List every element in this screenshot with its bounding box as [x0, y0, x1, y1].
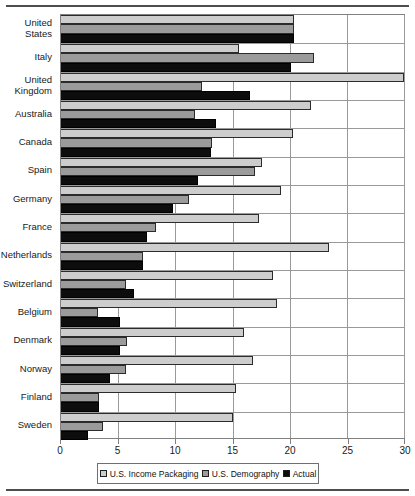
bar: [61, 53, 314, 62]
chart-figure: United StatesItalyUnited KingdomAustrali…: [0, 0, 415, 496]
bar: [61, 63, 291, 72]
x-tick-label: 20: [284, 445, 295, 457]
legend-label: U.S. Income Packaging: [110, 469, 199, 479]
bar: [61, 214, 259, 223]
x-tick: [404, 439, 405, 444]
top-divider-rule: [6, 5, 409, 7]
y-axis-label: Canada: [19, 136, 56, 147]
bar-group: [61, 43, 404, 71]
y-axis-label: Switzerland: [3, 278, 56, 289]
bar-group: [61, 100, 404, 128]
bar-group: [61, 412, 404, 440]
y-axis-label: Denmark: [13, 334, 56, 345]
bar: [61, 289, 134, 298]
bar: [61, 280, 126, 289]
bar: [61, 413, 233, 422]
bar: [61, 186, 281, 195]
bar: [61, 34, 294, 43]
bar: [61, 252, 143, 261]
x-tick-label: 10: [169, 445, 180, 457]
bar: [61, 422, 103, 431]
legend-swatch-icon: [283, 470, 290, 477]
bar: [61, 232, 147, 241]
bar-group: [61, 157, 404, 185]
bar: [61, 365, 126, 374]
y-axis-category-labels: United StatesItalyUnited KingdomAustrali…: [0, 14, 56, 439]
x-tick-label: 5: [115, 445, 121, 457]
y-axis-label: Netherlands: [1, 249, 56, 260]
x-tick: [175, 439, 176, 444]
legend-swatch-icon: [202, 470, 209, 477]
bar: [61, 129, 293, 138]
bar: [61, 82, 202, 91]
bar: [61, 317, 120, 326]
legend-item[interactable]: U.S. Demography: [202, 469, 280, 479]
x-tick: [233, 439, 234, 444]
bar: [61, 158, 262, 167]
bar: [61, 328, 244, 337]
y-axis-label: Sweden: [18, 419, 56, 430]
x-tick: [118, 439, 119, 444]
bar: [61, 195, 189, 204]
x-tick-label: 15: [227, 445, 238, 457]
bar: [61, 138, 212, 147]
bar: [61, 384, 236, 393]
bar: [61, 346, 120, 355]
y-axis-label: United States: [25, 17, 56, 39]
bar: [61, 110, 195, 119]
bar: [61, 261, 143, 270]
bar-group: [61, 72, 404, 100]
x-tick-label: 25: [342, 445, 353, 457]
plot-area: [60, 14, 405, 439]
bar: [61, 308, 98, 317]
y-axis-label: Belgium: [18, 306, 56, 317]
x-tick: [60, 439, 61, 444]
bar: [61, 223, 156, 232]
legend-item[interactable]: U.S. Income Packaging: [100, 469, 199, 479]
bar: [61, 271, 273, 280]
bar-group: [61, 298, 404, 326]
gridline-30: [404, 15, 405, 438]
bar-group: [61, 128, 404, 156]
x-axis: 051015202530: [60, 439, 405, 461]
legend-item[interactable]: Actual: [283, 469, 317, 479]
y-axis-label: France: [22, 221, 56, 232]
bar: [61, 176, 198, 185]
bar: [61, 44, 239, 53]
y-axis-label: Australia: [15, 108, 56, 119]
bar: [61, 243, 329, 252]
y-axis-label: Finland: [21, 391, 56, 402]
legend-label: Actual: [293, 469, 317, 479]
bar: [61, 119, 216, 128]
y-axis-label: Germany: [13, 193, 56, 204]
bar: [61, 167, 255, 176]
bar: [61, 402, 99, 411]
bar: [61, 91, 250, 100]
chart-legend: U.S. Income PackagingU.S. DemographyActu…: [97, 463, 319, 484]
bar: [61, 393, 99, 402]
bar: [61, 374, 110, 383]
bar-groups: [61, 15, 404, 438]
y-axis-label: Norway: [20, 363, 56, 374]
x-tick-label: 0: [57, 445, 63, 457]
legend-swatch-icon: [100, 470, 107, 477]
y-axis-label: Italy: [35, 51, 56, 62]
bar: [61, 15, 294, 24]
bar: [61, 148, 211, 157]
bar-group: [61, 242, 404, 270]
bar-group: [61, 185, 404, 213]
bar-group: [61, 270, 404, 298]
bar: [61, 73, 404, 82]
x-tick: [348, 439, 349, 444]
bar-group: [61, 355, 404, 383]
x-tick: [290, 439, 291, 444]
bar: [61, 101, 311, 110]
bar: [61, 299, 277, 308]
legend-label: U.S. Demography: [212, 469, 280, 479]
bar-group: [61, 213, 404, 241]
bar-group: [61, 383, 404, 411]
bottom-divider-rule: [6, 489, 409, 491]
bar: [61, 356, 253, 365]
bar: [61, 204, 173, 213]
y-axis-label: United Kingdom: [15, 74, 57, 96]
